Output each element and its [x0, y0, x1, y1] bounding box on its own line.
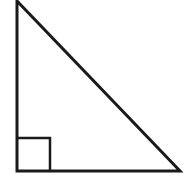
right-angle-marker: [17, 138, 50, 171]
triangle: [17, 1, 180, 171]
right-triangle-diagram: [0, 0, 184, 179]
